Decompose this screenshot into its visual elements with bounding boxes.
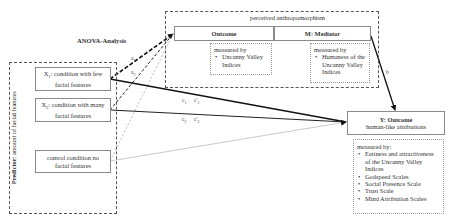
mediator-box: M: Mediator (274, 26, 371, 41)
outcome-box: Outcome (174, 26, 274, 41)
y-measure-item: Trust Scale (365, 187, 441, 194)
path-c1-prime-label: c'1 (194, 97, 199, 105)
predictor-label: Predictor: amount of facial features (10, 78, 17, 198)
y-measure-item: Godspeed Scales (365, 173, 441, 180)
path-control-outcome-line (110, 34, 173, 161)
path-c1-label: c1 (182, 97, 186, 105)
mediator-measure-item: Humaness of the Uncanny Valley Indices (322, 53, 368, 75)
c2p-sub: 2 (197, 119, 199, 124)
path-c2-prime-label: c'2 (194, 116, 199, 124)
c1-sub: 1 (184, 100, 186, 105)
mediator-measured-by-label: measured by (314, 46, 367, 53)
anova-label: ANOVA-Analysis (77, 37, 126, 44)
y-outcome-box: Y: Outcome human-like attributions (347, 111, 445, 135)
y-outcome-measures: measured by: Eeriness and attractiveness… (353, 139, 444, 214)
path-b-label: b (386, 69, 389, 75)
outcome-measures: measured by Uncanny Valley Indices (210, 43, 272, 75)
y-measured-by-label: measured by: (357, 143, 441, 150)
path-a1-label: a1 (131, 55, 135, 63)
condition-x2-box: X2: condition with many facial features (35, 98, 111, 122)
control-condition-box: control condition no facial features (35, 150, 111, 173)
a1-sub: 1 (133, 58, 135, 63)
anthropomorphism-title: perceived anthropomorphism (250, 14, 325, 21)
x1-text: : condition with few facial features (51, 70, 103, 88)
condition-x1-box: X1: condition with few facial features (35, 67, 111, 91)
c1p-sub: 1 (197, 100, 199, 105)
y-measure-item: Social Presence Scale (365, 180, 441, 187)
predictor-label-bold: Predictor (10, 158, 17, 184)
path-a2-label: a2 (131, 69, 135, 77)
a2-sub: 2 (133, 72, 135, 77)
path-control-y-line (110, 122, 346, 161)
x2-text: : condition with many facial features (48, 101, 104, 119)
outcome-measure-item: Uncanny Valley Indices (222, 53, 266, 68)
y-outcome-title: Y: Outcome (380, 116, 413, 123)
y-measure-item: Eeriness and attractiveness of the Uncan… (365, 150, 437, 172)
y-outcome-subtitle: human-like attributions (366, 123, 426, 130)
c2-sub: 2 (184, 119, 186, 124)
y-measure-item: Mind Attribution Scales (365, 195, 441, 202)
path-c2-label: c2 (182, 116, 186, 124)
outcome-measured-by-label: measured by (214, 46, 269, 53)
predictor-label-rest: : amount of facial features (10, 91, 17, 158)
path-a2-line (110, 34, 173, 110)
mediator-measures: measured by Humaness of the Uncanny Vall… (310, 43, 370, 83)
